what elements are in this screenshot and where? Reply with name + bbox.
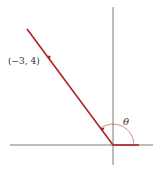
terminal-side-angle-diagram: (−3, 4) θ xyxy=(0,0,162,171)
point-marker xyxy=(47,55,50,58)
angle-label: θ xyxy=(123,116,129,127)
terminal-side-ray xyxy=(27,29,113,145)
point-label: (−3, 4) xyxy=(8,56,40,66)
